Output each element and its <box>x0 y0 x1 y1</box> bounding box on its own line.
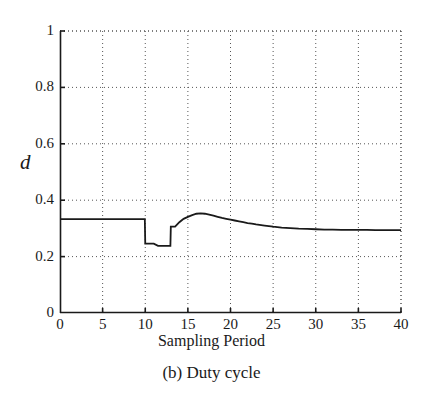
x-tick-label: 25 <box>253 317 293 332</box>
x-tick-label: 40 <box>381 317 421 332</box>
x-axis-title: Sampling Period <box>0 333 423 349</box>
y-tick-label: 0.4 <box>35 192 54 207</box>
x-tick-label: 15 <box>168 317 208 332</box>
y-tick-label: 1 <box>47 23 55 38</box>
data-series-group <box>60 213 401 245</box>
x-tick-label: 0 <box>40 317 80 332</box>
tick-marks-group <box>60 31 401 313</box>
figure-duty-cycle: d 00.20.40.60.81 0510152025303540 Sampli… <box>0 0 423 403</box>
figure-caption: (b) Duty cycle <box>0 364 423 381</box>
x-tick-label: 35 <box>338 317 378 332</box>
y-tick-label: 0.8 <box>35 79 54 94</box>
y-axis-title: d <box>20 152 31 173</box>
y-tick-label: 0.2 <box>35 249 54 264</box>
axis-lines-group <box>60 31 401 313</box>
gridlines-group <box>60 31 401 313</box>
x-tick-label: 20 <box>211 317 251 332</box>
x-tick-label: 10 <box>125 317 165 332</box>
x-tick-label: 5 <box>83 317 123 332</box>
y-tick-label: 0.6 <box>35 136 54 151</box>
data-line-duty-cycle <box>60 213 401 245</box>
x-tick-label: 30 <box>296 317 336 332</box>
